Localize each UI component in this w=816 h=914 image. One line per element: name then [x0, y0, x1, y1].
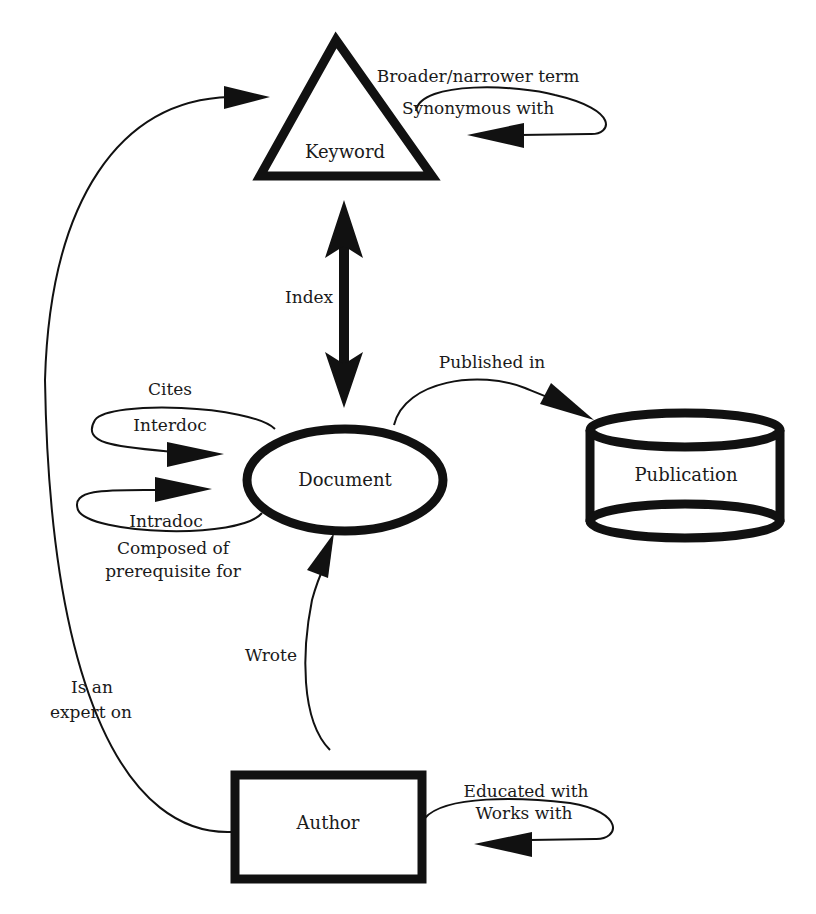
publication-label: Publication	[635, 464, 738, 485]
arrowhead-right-icon	[167, 442, 224, 467]
intradoc-label: Intradoc	[129, 511, 202, 531]
concept-diagram: Keyword Broader/narrower term Synonymous…	[0, 0, 816, 914]
interdoc-label: Interdoc	[133, 415, 206, 435]
published-in-edge: Published in	[394, 352, 594, 425]
intradoc-edge: Intradoc Composed of prerequisite for	[77, 477, 262, 581]
arrowhead-icon	[540, 383, 594, 420]
cites-label: Cites	[148, 379, 192, 399]
expert-on-edge: Is an expert on	[45, 86, 270, 832]
author-label: Author	[296, 812, 360, 833]
educated-with-label: Educated with	[464, 781, 589, 801]
expert-on-label: expert on	[50, 702, 132, 722]
publication-node[interactable]: Publication	[590, 413, 781, 538]
arrowhead-up-icon	[307, 533, 334, 578]
works-with-label: Works with	[476, 803, 573, 823]
arrowhead-left-icon	[474, 832, 532, 857]
keyword-self-edge: Broader/narrower term Synonymous with	[377, 66, 606, 148]
prerequisite-for-label: prerequisite for	[105, 561, 242, 581]
index-label: Index	[285, 287, 334, 307]
author-self-edge: Educated with Works with	[425, 781, 613, 857]
arrowhead-right-icon	[224, 86, 270, 109]
document-label: Document	[298, 469, 392, 490]
published-in-label: Published in	[439, 352, 546, 372]
author-node[interactable]: Author	[235, 775, 422, 879]
composed-of-label: Composed of	[117, 538, 231, 558]
wrote-line	[305, 562, 330, 750]
arrowhead-left-icon	[467, 123, 524, 148]
document-node[interactable]: Document	[247, 429, 443, 531]
index-shaft	[339, 240, 349, 380]
synonymous-label: Synonymous with	[402, 98, 554, 118]
keyword-label: Keyword	[305, 141, 385, 162]
cylinder-top	[590, 413, 780, 447]
interdoc-edge: Cites Interdoc	[92, 379, 275, 467]
wrote-label: Wrote	[245, 645, 297, 665]
index-edge: Index	[285, 200, 363, 408]
wrote-edge: Wrote	[245, 533, 334, 750]
arrowhead-right-icon	[155, 477, 212, 502]
is-an-label: Is an	[71, 677, 113, 697]
broader-narrower-label: Broader/narrower term	[377, 66, 580, 86]
